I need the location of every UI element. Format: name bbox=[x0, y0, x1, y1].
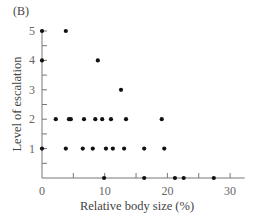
data-point bbox=[64, 147, 68, 151]
data-point bbox=[122, 147, 126, 151]
data-points bbox=[40, 29, 216, 180]
data-point bbox=[40, 147, 44, 151]
data-point bbox=[82, 117, 86, 121]
data-point bbox=[69, 117, 73, 121]
data-point bbox=[142, 147, 146, 151]
data-point bbox=[182, 176, 186, 180]
y-tick-label: 2 bbox=[29, 112, 35, 126]
y-axis-title: Level of escalation bbox=[10, 56, 24, 152]
data-point bbox=[81, 147, 85, 151]
x-tick-label: 20 bbox=[161, 184, 173, 198]
data-point bbox=[54, 117, 58, 121]
y-tick-label: 4 bbox=[29, 53, 35, 67]
y-tick-label: 3 bbox=[29, 83, 35, 97]
data-point bbox=[93, 117, 97, 121]
data-point bbox=[91, 147, 95, 151]
axes: 010203012345 bbox=[29, 24, 245, 198]
data-point bbox=[102, 176, 106, 180]
data-point bbox=[162, 147, 166, 151]
data-point bbox=[160, 117, 164, 121]
data-point bbox=[124, 117, 128, 121]
data-point bbox=[96, 58, 100, 62]
data-point bbox=[100, 117, 104, 121]
scatter-chart: 010203012345 Relative body size (%) Leve… bbox=[0, 0, 256, 221]
data-point bbox=[40, 58, 44, 62]
data-point bbox=[119, 88, 123, 92]
x-axis-title: Relative body size (%) bbox=[80, 199, 194, 213]
data-point bbox=[212, 176, 216, 180]
data-point bbox=[40, 29, 44, 33]
y-tick-label: 5 bbox=[29, 24, 35, 38]
x-tick-label: 0 bbox=[39, 184, 45, 198]
x-tick-label: 10 bbox=[99, 184, 111, 198]
data-point bbox=[104, 147, 108, 151]
data-point bbox=[64, 29, 68, 33]
data-point bbox=[173, 176, 177, 180]
x-tick-label: 30 bbox=[224, 184, 236, 198]
data-point bbox=[111, 147, 115, 151]
data-point bbox=[109, 117, 113, 121]
y-tick-label: 1 bbox=[29, 142, 35, 156]
data-point bbox=[142, 176, 146, 180]
